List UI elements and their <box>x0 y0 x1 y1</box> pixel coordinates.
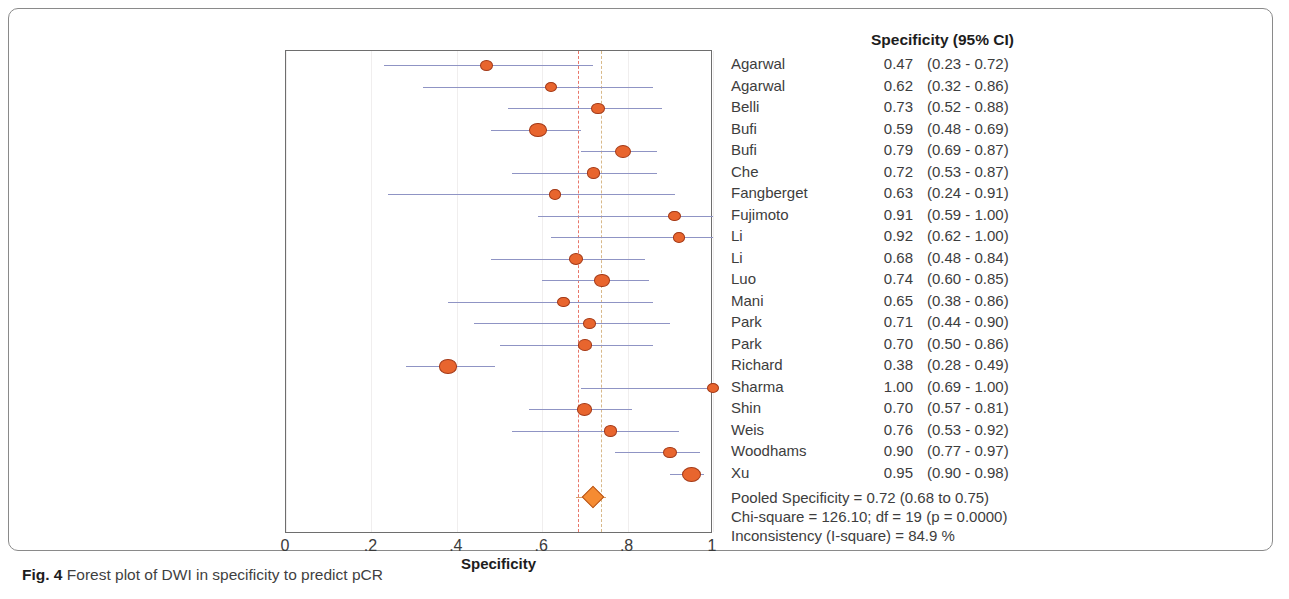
study-name: Fangberget <box>731 184 808 201</box>
ci-line <box>538 216 713 217</box>
study-confidence-interval: (0.60 - 0.85) <box>927 270 1009 287</box>
study-estimate: 0.63 <box>861 184 913 201</box>
study-estimate: 0.38 <box>861 356 913 373</box>
study-estimate: 0.47 <box>861 55 913 72</box>
study-confidence-interval: (0.44 - 0.90) <box>927 313 1009 330</box>
study-name: Mani <box>731 292 764 309</box>
table-row: Shin0.70(0.57 - 0.81) <box>731 399 1051 421</box>
study-name: Agarwal <box>731 55 785 72</box>
table-row: Agarwal0.47(0.23 - 0.72) <box>731 55 1051 77</box>
study-name: Belli <box>731 98 759 115</box>
study-confidence-interval: (0.23 - 0.72) <box>927 55 1009 72</box>
study-confidence-interval: (0.48 - 0.69) <box>927 120 1009 137</box>
study-confidence-interval: (0.77 - 0.97) <box>927 442 1009 459</box>
study-name: Bufi <box>731 141 757 158</box>
table-row: Weis0.76(0.53 - 0.92) <box>731 421 1051 443</box>
study-confidence-interval: (0.38 - 0.86) <box>927 292 1009 309</box>
study-marker <box>557 297 570 308</box>
x-tick-label-2: .4 <box>449 537 462 555</box>
study-estimate: 0.59 <box>861 120 913 137</box>
gridline-2 <box>457 51 458 532</box>
study-confidence-interval: (0.52 - 0.88) <box>927 98 1009 115</box>
ci-line <box>474 323 670 324</box>
study-name: Bufi <box>731 120 757 137</box>
ci-line <box>508 108 662 109</box>
study-marker <box>549 189 561 199</box>
study-name: Che <box>731 163 759 180</box>
ci-line <box>551 237 713 238</box>
study-marker <box>583 318 596 329</box>
study-confidence-interval: (0.50 - 0.86) <box>927 335 1009 352</box>
study-estimate: 0.90 <box>861 442 913 459</box>
ci-line <box>512 173 657 174</box>
study-marker <box>569 253 583 265</box>
study-marker <box>668 211 680 221</box>
study-confidence-interval: (0.28 - 0.49) <box>927 356 1009 373</box>
study-name: Woodhams <box>731 442 807 459</box>
x-tick-label-3: .6 <box>535 537 548 555</box>
table-row: Mani0.65(0.38 - 0.86) <box>731 292 1051 314</box>
study-marker <box>439 359 457 373</box>
study-name: Sharma <box>731 378 784 395</box>
table-row: Fujimoto0.91(0.59 - 1.00) <box>731 206 1051 228</box>
study-marker <box>545 82 557 92</box>
x-tick-label-1: .2 <box>364 537 377 555</box>
ci-line <box>512 431 679 432</box>
study-confidence-interval: (0.32 - 0.86) <box>927 77 1009 94</box>
study-estimate: 0.76 <box>861 421 913 438</box>
gridline-1 <box>371 51 372 532</box>
chi-square-line: Chi-square = 126.10; df = 19 (p = 0.0000… <box>731 507 1007 526</box>
table-header: Specificity (95% CI) <box>871 31 1014 49</box>
study-estimate: 0.62 <box>861 77 913 94</box>
x-axis-tick-labels: 0.2.4.6.81 <box>285 537 712 555</box>
study-marker <box>591 103 605 114</box>
study-rows-table: Agarwal0.47(0.23 - 0.72)Agarwal0.62(0.32… <box>731 55 1051 485</box>
study-marker <box>604 425 617 436</box>
ci-line <box>448 302 653 303</box>
study-marker <box>594 274 609 286</box>
study-confidence-interval: (0.90 - 0.98) <box>927 464 1009 481</box>
study-estimate: 0.65 <box>861 292 913 309</box>
study-marker <box>663 447 677 459</box>
table-row: Luo0.74(0.60 - 0.85) <box>731 270 1051 292</box>
table-row: Richard0.38(0.28 - 0.49) <box>731 356 1051 378</box>
reference-line-pooled-specificity <box>578 51 579 532</box>
study-name: Park <box>731 335 762 352</box>
study-marker <box>615 145 631 158</box>
study-name: Richard <box>731 356 783 373</box>
study-confidence-interval: (0.24 - 0.91) <box>927 184 1009 201</box>
summary-statistics: Pooled Specificity = 0.72 (0.68 to 0.75)… <box>731 488 1007 545</box>
study-estimate: 0.79 <box>861 141 913 158</box>
study-confidence-interval: (0.69 - 1.00) <box>927 378 1009 395</box>
study-estimate: 0.74 <box>861 270 913 287</box>
gridline-0 <box>286 51 287 532</box>
table-row: Woodhams0.90(0.77 - 0.97) <box>731 442 1051 464</box>
table-row: Xu0.95(0.90 - 0.98) <box>731 464 1051 486</box>
study-marker <box>480 60 493 71</box>
study-estimate: 0.72 <box>861 163 913 180</box>
study-name: Shin <box>731 399 761 416</box>
table-row: Bufi0.79(0.69 - 0.87) <box>731 141 1051 163</box>
study-estimate: 0.95 <box>861 464 913 481</box>
study-name: Li <box>731 249 743 266</box>
study-estimate: 0.71 <box>861 313 913 330</box>
study-name: Xu <box>731 464 749 481</box>
table-row: Li0.68(0.48 - 0.84) <box>731 249 1051 271</box>
ci-line <box>423 87 654 88</box>
study-name: Park <box>731 313 762 330</box>
study-name: Weis <box>731 421 764 438</box>
table-row: Fangberget0.63(0.24 - 0.91) <box>731 184 1051 206</box>
gridline-4 <box>628 51 629 532</box>
figure-caption-label: Fig. 4 <box>22 566 62 583</box>
study-name: Fujimoto <box>731 206 789 223</box>
table-row: Li0.92(0.62 - 1.00) <box>731 227 1051 249</box>
study-name: Luo <box>731 270 756 287</box>
study-estimate: 0.73 <box>861 98 913 115</box>
study-marker <box>529 123 546 137</box>
study-name: Li <box>731 227 743 244</box>
study-estimate: 0.70 <box>861 335 913 352</box>
table-row: Park0.71(0.44 - 0.90) <box>731 313 1051 335</box>
table-row: Belli0.73(0.52 - 0.88) <box>731 98 1051 120</box>
x-tick-label-0: 0 <box>281 537 290 555</box>
figure-panel: 0.2.4.6.81 Specificity Specificity (95% … <box>8 8 1273 551</box>
